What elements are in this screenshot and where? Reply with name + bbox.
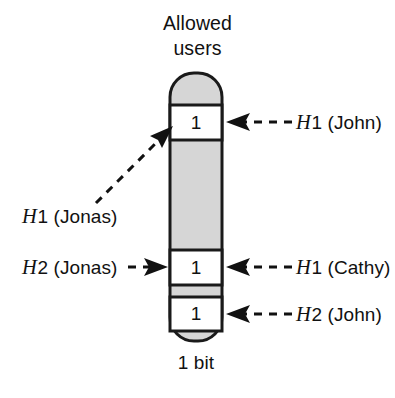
annotation-text-h2-john: 2 (John) bbox=[311, 304, 382, 325]
bit-cell-bottom-value: 1 bbox=[170, 303, 222, 325]
figure-footer-label: 1 bit bbox=[146, 352, 246, 374]
annotation-label-h1-jonas: H1 (Jonas) bbox=[22, 205, 118, 228]
annotation-h-symbol-h1-cathy: H bbox=[296, 256, 311, 278]
hash-table-bit-vector-figure: Allowed users 1 1 1 H1 (John) H1 bbox=[0, 0, 395, 398]
annotation-text-h1-cathy: 1 (Cathy) bbox=[311, 257, 390, 278]
annotation-label-h1-cathy: H1 (Cathy) bbox=[296, 256, 390, 279]
annotation-h-symbol-h2-john: H bbox=[296, 303, 311, 325]
annotation-label-h2-jonas: H2 (Jonas) bbox=[22, 256, 118, 279]
annotation-text-h2-jonas: 2 (Jonas) bbox=[37, 257, 117, 278]
annotation-h-symbol-h1-jonas: H bbox=[22, 205, 37, 227]
annotation-text-h1-john: 1 (John) bbox=[311, 112, 382, 133]
annotation-text-h1-jonas: 1 (Jonas) bbox=[37, 206, 117, 227]
annotation-h-symbol-h2-jonas: H bbox=[22, 256, 37, 278]
annotation-h-symbol-h1-john: H bbox=[296, 111, 311, 133]
annotation-label-h1-john: H1 (John) bbox=[296, 111, 382, 134]
bit-vector-drawing bbox=[0, 0, 395, 398]
annotation-label-h2-john: H2 (John) bbox=[296, 303, 382, 326]
arrow-line-h1-jonas bbox=[96, 141, 158, 203]
bit-cell-top-value: 1 bbox=[170, 112, 222, 134]
bit-cell-middle-value: 1 bbox=[170, 257, 222, 279]
